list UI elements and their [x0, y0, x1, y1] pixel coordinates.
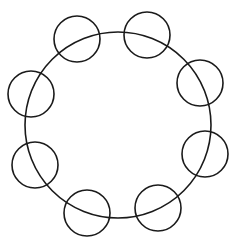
small-circle — [54, 16, 100, 62]
small-circle — [177, 60, 223, 106]
small-circle — [124, 12, 170, 58]
small-circle — [182, 131, 228, 177]
circles-diagram — [0, 0, 235, 250]
small-circles-group — [8, 12, 228, 236]
ring-circle — [25, 32, 211, 218]
small-circle — [135, 185, 181, 231]
small-circle — [12, 142, 58, 188]
diagram-canvas — [0, 0, 235, 250]
